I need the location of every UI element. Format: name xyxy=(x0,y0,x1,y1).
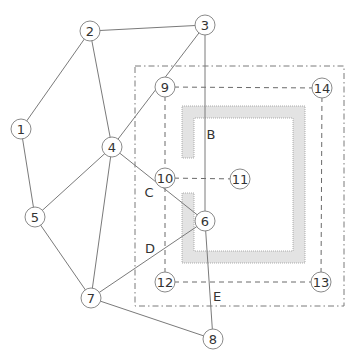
node-label: 10 xyxy=(157,171,174,186)
node-7[interactable]: 7 xyxy=(81,288,101,308)
node-label: 13 xyxy=(313,275,330,290)
node-6[interactable]: 6 xyxy=(195,211,215,231)
edge-1-2 xyxy=(21,31,90,129)
dashed-edge-14-13 xyxy=(321,88,322,282)
edge-2-4 xyxy=(90,31,112,147)
diagram-svg: BCDE 1234567891011121314 xyxy=(0,0,360,362)
node-label: 12 xyxy=(157,275,174,290)
region-label-D: D xyxy=(145,241,155,256)
solid-edges-layer xyxy=(21,25,213,339)
dashed-edge-10-11 xyxy=(165,178,240,179)
graph-diagram: BCDE 1234567891011121314 xyxy=(0,0,360,362)
node-label: 14 xyxy=(314,81,331,96)
node-10[interactable]: 10 xyxy=(155,168,175,188)
node-8[interactable]: 8 xyxy=(203,329,223,349)
region-label-C: C xyxy=(144,185,153,200)
node-1[interactable]: 1 xyxy=(11,119,31,139)
node-label: 9 xyxy=(161,80,169,95)
node-label: 11 xyxy=(232,172,249,187)
node-4[interactable]: 4 xyxy=(102,137,122,157)
edge-6-8 xyxy=(205,221,213,339)
node-9[interactable]: 9 xyxy=(155,77,175,97)
node-label: 2 xyxy=(86,24,94,39)
nodes-layer: 1234567891011121314 xyxy=(11,15,332,349)
edge-2-3 xyxy=(90,25,205,31)
node-label: 8 xyxy=(209,332,217,347)
node-label: 5 xyxy=(31,210,39,225)
edge-7-8 xyxy=(91,298,213,339)
node-5[interactable]: 5 xyxy=(25,207,45,227)
node-14[interactable]: 14 xyxy=(312,78,332,98)
node-label: 1 xyxy=(17,122,25,137)
node-12[interactable]: 12 xyxy=(155,272,175,292)
node-label: 4 xyxy=(108,140,116,155)
node-label: 6 xyxy=(201,214,209,229)
edge-1-5 xyxy=(21,129,35,217)
node-label: 3 xyxy=(201,18,209,33)
node-3[interactable]: 3 xyxy=(195,15,215,35)
edge-5-7 xyxy=(35,217,91,298)
node-13[interactable]: 13 xyxy=(311,272,331,292)
region-label-B: B xyxy=(207,127,216,142)
edge-4-5 xyxy=(35,147,112,217)
edge-4-7 xyxy=(91,147,112,298)
region-label-E: E xyxy=(213,289,221,304)
node-11[interactable]: 11 xyxy=(230,169,250,189)
node-label: 7 xyxy=(87,291,95,306)
node-2[interactable]: 2 xyxy=(80,21,100,41)
dashed-edge-9-14 xyxy=(165,87,322,88)
